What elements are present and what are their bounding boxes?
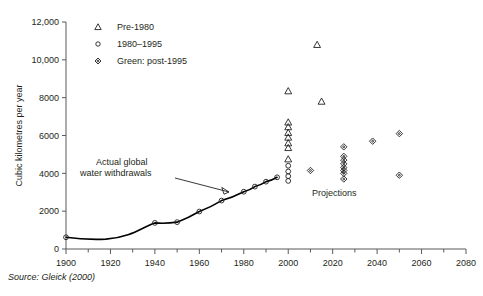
- data-point-triangle: [285, 144, 292, 150]
- x-tick-label: 2080: [456, 258, 476, 268]
- x-tick-label: 1960: [189, 258, 209, 268]
- data-point-diamond-center: [398, 133, 400, 135]
- y-tick-label: 8000: [39, 93, 59, 103]
- data-point-diamond: [307, 167, 313, 173]
- x-tick-label: 1980: [234, 258, 254, 268]
- x-tick-label: 2020: [323, 258, 343, 268]
- legend-marker-diamond-center: [97, 60, 99, 62]
- data-point-triangle: [285, 88, 292, 94]
- data-point-diamond: [396, 172, 402, 178]
- legend-label-0: Pre-1980: [117, 22, 154, 32]
- data-point-diamond-center: [372, 140, 374, 142]
- y-axis-title: Cubic kilometres per year: [14, 84, 24, 186]
- y-tick-label: 6000: [39, 131, 59, 141]
- y-tick-label: 0: [54, 244, 59, 254]
- x-tick-label: 1920: [100, 258, 120, 268]
- data-point-diamond-center: [310, 170, 312, 172]
- y-tick-label: 4000: [39, 169, 59, 179]
- legend-label-2: Green: post-1995: [117, 56, 187, 66]
- data-point-diamond-center: [343, 146, 345, 148]
- x-tick-label: 1900: [56, 258, 76, 268]
- x-tick-label: 2000: [278, 258, 298, 268]
- actual-withdrawals-curve: [66, 177, 277, 239]
- x-tick-label: 2040: [367, 258, 387, 268]
- water-withdrawals-figure: 0200040006000800010,00012,00019001920194…: [0, 0, 483, 296]
- data-point-diamond: [341, 144, 347, 150]
- legend-marker-circle: [96, 42, 100, 46]
- data-point-diamond: [369, 138, 375, 144]
- legend-marker-diamond: [95, 58, 101, 64]
- actual-annotation-arrow-line: [175, 178, 229, 192]
- actual-annotation-line1: Actual global: [96, 157, 148, 167]
- data-point-triangle: [285, 156, 292, 162]
- source-caption: Source: Gleick (2000): [8, 272, 95, 282]
- data-point-circle: [286, 169, 291, 174]
- actual-annotation-line2: water withdrawals: [79, 168, 152, 178]
- data-point-circle: [286, 163, 291, 168]
- data-point-diamond-center: [398, 174, 400, 176]
- chart-canvas: 0200040006000800010,00012,00019001920194…: [0, 0, 483, 296]
- data-point-circle: [286, 174, 291, 179]
- y-tick-label: 10,000: [31, 55, 59, 65]
- data-point-diamond: [396, 130, 402, 136]
- x-tick-label: 2060: [412, 258, 432, 268]
- projections-label: Projections: [312, 188, 357, 198]
- y-tick-label: 12,000: [31, 17, 59, 27]
- data-point-circle: [286, 179, 291, 184]
- data-point-diamond-center: [343, 178, 345, 180]
- data-point-triangle: [314, 41, 321, 47]
- legend-marker-triangle: [95, 24, 101, 30]
- legend-label-1: 1980–1995: [117, 39, 162, 49]
- x-tick-label: 1940: [145, 258, 165, 268]
- y-tick-label: 2000: [39, 206, 59, 216]
- data-point-triangle: [318, 98, 325, 104]
